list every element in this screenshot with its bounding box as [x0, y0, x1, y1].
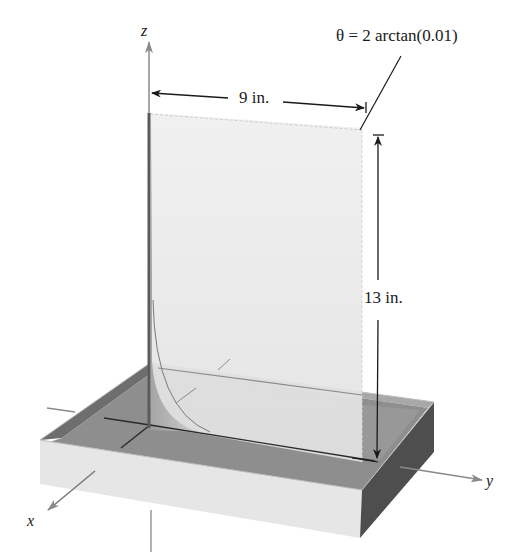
- angle-annotation: θ = 2 arctan(0.01): [336, 26, 458, 46]
- y-axis-label: y: [486, 472, 493, 490]
- z-axis-label: z: [141, 22, 147, 40]
- width-dimension-left: [152, 93, 228, 98]
- theta-leader-line: [360, 56, 401, 130]
- y-axis-back: [47, 408, 75, 412]
- diagram-canvas: [0, 0, 520, 557]
- diagram-figure: z x y θ = 2 arctan(0.01) 9 in. 13 in.: [0, 0, 520, 557]
- sheet-height-label: 13 in.: [363, 286, 404, 310]
- x-axis-label: x: [27, 512, 34, 530]
- width-dimension-right: [283, 102, 364, 108]
- sheet-width-label: 9 in.: [236, 88, 272, 108]
